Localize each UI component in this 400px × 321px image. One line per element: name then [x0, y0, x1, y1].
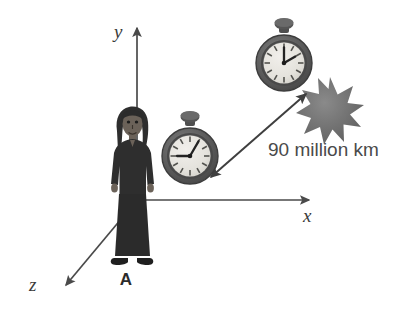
- right-hand: [147, 183, 154, 192]
- physics-diagram: z x y: [0, 0, 400, 321]
- stopwatch-upper-hub: [282, 61, 287, 66]
- z-axis-label: z: [28, 274, 37, 295]
- left-hand: [111, 183, 118, 192]
- stopwatch-lower-hub: [188, 154, 193, 159]
- x-axis-label: x: [302, 205, 312, 226]
- stopwatch-lower-crown-top: [181, 111, 200, 120]
- stopwatch-upper-crown-top: [275, 18, 294, 27]
- diagram-canvas: z x y: [0, 0, 400, 321]
- left-eye: [127, 121, 130, 124]
- skirt: [115, 194, 150, 256]
- observer-label: A: [120, 270, 132, 289]
- y-axis-label: y: [112, 21, 123, 42]
- distance-label: 90 million km: [268, 139, 379, 160]
- right-eye: [135, 121, 138, 124]
